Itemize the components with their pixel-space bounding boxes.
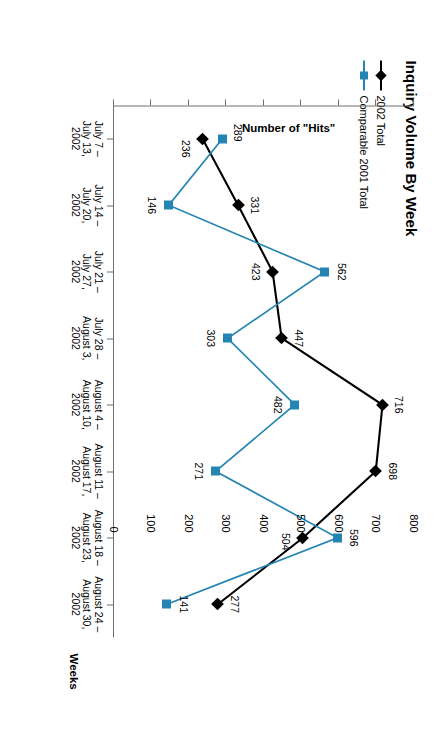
y-axis-tick-label: 800 xyxy=(408,514,420,532)
y-axis-tick-label: 0 xyxy=(108,526,120,532)
y-axis-tick xyxy=(263,99,264,105)
y-axis-tick-label: 500 xyxy=(296,514,308,532)
data-point-label: 277 xyxy=(229,595,241,613)
y-axis-tick xyxy=(413,99,414,105)
data-point-label: 236 xyxy=(181,139,193,157)
y-axis-tick xyxy=(188,99,189,105)
x-axis-tick xyxy=(107,604,114,605)
data-point-marker xyxy=(218,134,227,143)
x-axis-tick xyxy=(107,271,114,272)
data-point-label: 716 xyxy=(394,395,406,413)
y-axis-tick xyxy=(375,99,376,105)
x-axis-title: Weeks xyxy=(68,653,80,689)
data-point-label: 596 xyxy=(349,528,361,546)
x-axis-tick xyxy=(107,138,114,139)
y-axis-tick-label: 200 xyxy=(183,514,195,532)
data-point-label: 562 xyxy=(336,262,348,280)
chart-page: Inquiry Volume By Week 2002 Total Compar… xyxy=(0,0,436,729)
data-point-marker xyxy=(333,533,342,542)
data-point-marker xyxy=(164,200,173,209)
y-axis-tick xyxy=(338,99,339,105)
x-axis-tick-label: August 24 –August 30,2002 xyxy=(69,560,104,648)
legend-key-diamond-icon xyxy=(374,60,389,90)
y-axis-tick xyxy=(225,99,226,105)
data-point-label: 303 xyxy=(205,329,217,347)
data-point-marker xyxy=(162,599,171,608)
data-point-label: 423 xyxy=(250,262,262,280)
y-axis-tick-label: 600 xyxy=(333,514,345,532)
x-axis-tick xyxy=(107,471,114,472)
data-point-label: 271 xyxy=(193,462,205,480)
y-axis-tick xyxy=(150,99,151,105)
y-axis-title: Number of "Hits" xyxy=(242,121,335,133)
legend-key-square-icon xyxy=(357,60,372,90)
x-axis-tick xyxy=(107,537,114,538)
data-point-marker xyxy=(223,333,232,342)
data-point-marker xyxy=(290,400,299,409)
data-point-label: 698 xyxy=(387,462,399,480)
y-axis-tick-label: 400 xyxy=(258,514,270,532)
data-point-label: 482 xyxy=(272,395,284,413)
series-lines xyxy=(114,105,414,637)
chart-stage: Inquiry Volume By Week 2002 Total Compar… xyxy=(0,0,436,729)
data-point-label: 331 xyxy=(249,196,261,214)
plot-area: 2363314234477166985042772891465623034822… xyxy=(114,105,414,637)
data-point-marker xyxy=(320,267,329,276)
data-point-label: 141 xyxy=(178,595,190,613)
data-point-label: 447 xyxy=(293,329,305,347)
x-axis-tick xyxy=(107,404,114,405)
data-point-label: 146 xyxy=(146,196,158,214)
y-axis-tick xyxy=(113,99,114,105)
y-axis-tick-label: 300 xyxy=(221,514,233,532)
y-axis-tick-label: 100 xyxy=(146,514,158,532)
data-point-label: 504 xyxy=(280,532,292,550)
y-axis-tick-label: 700 xyxy=(371,514,383,532)
x-axis-tick xyxy=(107,205,114,206)
x-axis-tick xyxy=(107,338,114,339)
y-axis-tick xyxy=(300,99,301,105)
data-point-marker xyxy=(211,466,220,475)
